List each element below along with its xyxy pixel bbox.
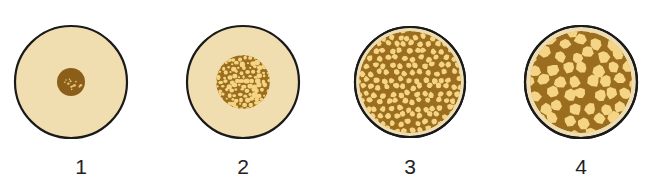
stage-4-disc	[500, 0, 648, 150]
stage-3: 3	[329, 0, 491, 196]
stage-3-label: 3	[329, 152, 491, 182]
stage-4: 4	[500, 0, 648, 196]
stage-2-label: 2	[162, 152, 324, 182]
stage-2: 2	[162, 0, 324, 196]
stage-1-disc	[0, 0, 162, 150]
stage-2-disc	[162, 0, 324, 150]
stage-3-disc	[329, 0, 491, 150]
stage-1: 1	[0, 0, 162, 196]
stage-4-label: 4	[500, 152, 648, 182]
stage-1-label: 1	[0, 152, 162, 182]
